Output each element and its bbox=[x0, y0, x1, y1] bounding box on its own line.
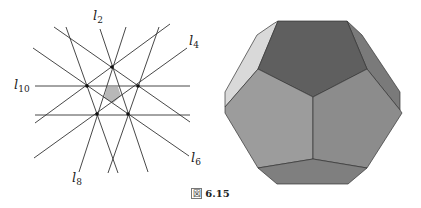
line-l8 bbox=[79, 27, 126, 172]
label-l6: l6 bbox=[191, 150, 201, 167]
figure-6-15: l2 l4 l6 l8 l10 図6.15 bbox=[0, 0, 421, 208]
figure-caption: 図6.15 bbox=[0, 188, 421, 199]
shaded-pentagon bbox=[104, 87, 121, 103]
line-arrangement-diagram: l2 l4 l6 l8 l10 bbox=[14, 8, 201, 187]
line-l2 bbox=[100, 29, 148, 172]
line-ac bbox=[54, 27, 190, 122]
label-l4: l4 bbox=[189, 33, 199, 50]
line-ab bbox=[35, 24, 170, 123]
polyhedron-diagram bbox=[225, 21, 402, 184]
label-l10: l10 bbox=[14, 77, 30, 94]
label-l8: l8 bbox=[72, 170, 82, 187]
figure-canvas: l2 l4 l6 l8 l10 bbox=[0, 0, 421, 208]
figure-number: 6.15 bbox=[205, 188, 229, 199]
figure-prefix: 図 bbox=[191, 188, 202, 199]
line-l6 bbox=[33, 48, 189, 156]
label-l2: l2 bbox=[93, 8, 103, 25]
